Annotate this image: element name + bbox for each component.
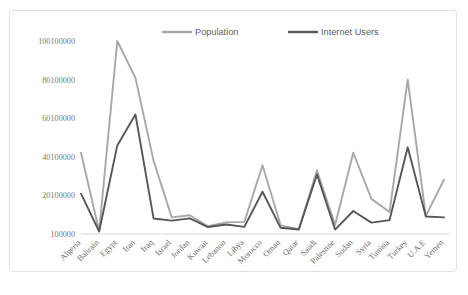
x-axis-category-label: Yemen (423, 237, 446, 260)
y-axis-tick-label: 60100000 (42, 114, 75, 123)
x-axis-category-label: Oman (261, 237, 282, 258)
series-line-population (81, 41, 444, 231)
x-axis-category-label: Egypt (98, 238, 119, 259)
x-axis-category-label: Iran (121, 237, 137, 253)
x-axis-category-label: Tunisia (367, 238, 391, 262)
series-line-internet-users (81, 115, 444, 232)
legend-label: Internet Users (321, 27, 379, 37)
x-axis-category-labels: AlgeriaBahrainEgyptIranIraqIsraelJordanK… (58, 237, 446, 265)
y-axis-tick-label: 40100000 (42, 153, 75, 162)
y-axis-tick-label: 20100000 (42, 191, 75, 200)
y-axis-tick-labels: 1000002010000040100000601000008010000010… (38, 37, 75, 239)
x-axis-category-label: Sudan (333, 237, 355, 259)
chart-card: 1000002010000040100000601000008010000010… (9, 10, 457, 272)
x-axis-category-label: Turkey (386, 237, 410, 261)
series-group (81, 41, 444, 231)
x-axis-category-label: Qatar (281, 238, 301, 258)
line-chart: 1000002010000040100000601000008010000010… (10, 11, 456, 271)
y-axis-tick-label: 100000 (50, 230, 75, 239)
y-axis-tick-label: 100100000 (38, 37, 75, 46)
legend-label: Population (195, 27, 238, 37)
y-axis-tick-label: 80100000 (42, 76, 75, 85)
chart-legend: PopulationInternet Users (162, 27, 379, 37)
